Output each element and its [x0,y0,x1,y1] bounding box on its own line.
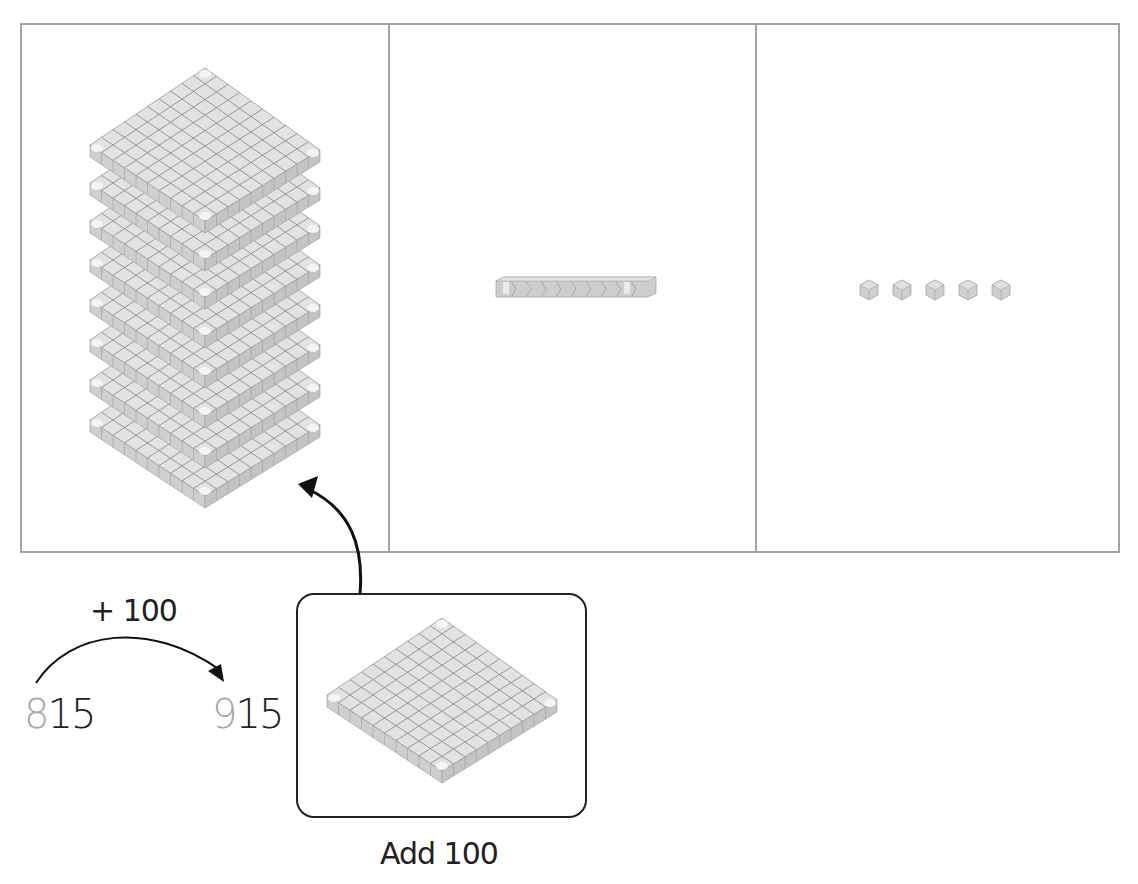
jump-label: + 100 [90,593,177,628]
end-changed-digit: 9 [212,691,235,737]
start-rest-digits: 15 [47,691,94,737]
end-number: 915 [212,691,282,737]
move-to-hundreds-arrow [298,476,361,594]
jump-arc [36,637,224,683]
start-number: 815 [24,691,94,737]
end-rest-digits: 15 [235,691,282,737]
unit-cube [992,280,1010,300]
add-card-caption: Add 100 [380,836,498,871]
unit-cube [893,280,911,300]
unit-cube [926,280,944,300]
tens-rod [496,277,656,297]
unit-cube [860,280,878,300]
hundreds-flats-stack [90,68,320,508]
unit-cube [959,280,977,300]
ones-cubes [860,280,1010,300]
add-100-card [296,593,587,818]
start-changed-digit: 8 [24,691,47,737]
